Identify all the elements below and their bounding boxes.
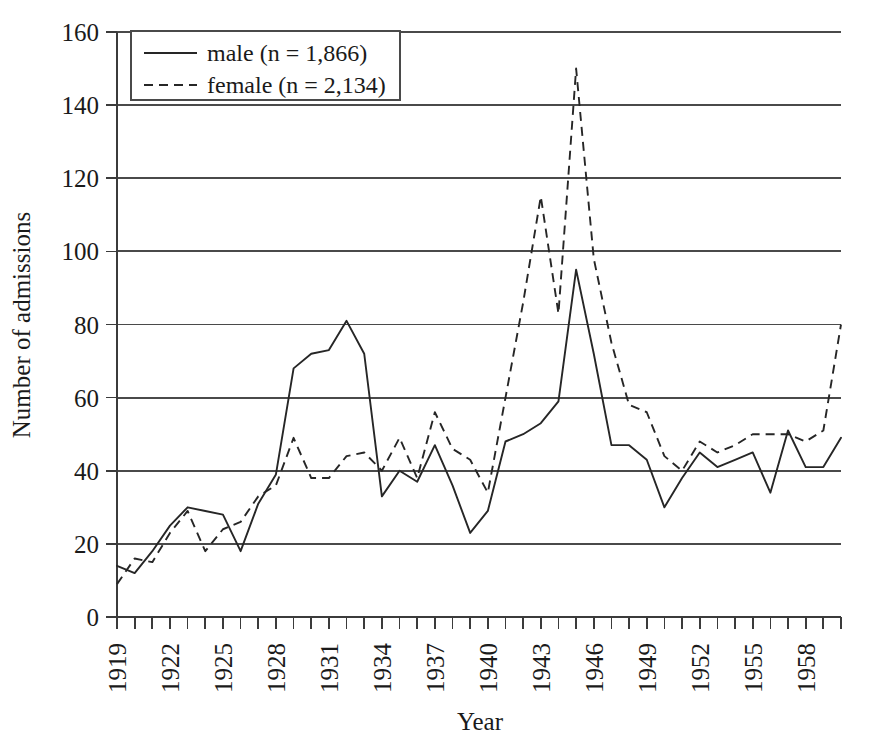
y-tick-label-20: 20 (74, 531, 99, 558)
y-tick-label-group: 020406080100120140160 (62, 19, 100, 631)
x-tick-label-1922: 1922 (157, 643, 184, 693)
x-tick-label-group: 1919192219251928193119341937194019431946… (104, 643, 820, 694)
x-tick-label-1955: 1955 (740, 643, 767, 693)
x-tick-label-1946: 1946 (581, 643, 608, 693)
chart-legend: male (n = 1,866) female (n = 2,134) (131, 31, 400, 100)
y-tick-label-120: 120 (62, 165, 100, 192)
series-line-female (117, 69, 841, 585)
x-axis-title: Year (457, 708, 504, 735)
x-tick-label-1934: 1934 (369, 643, 396, 694)
legend-label-female: female (n = 2,134) (207, 72, 386, 98)
y-tick-label-40: 40 (74, 458, 99, 485)
y-tick-label-100: 100 (62, 238, 100, 265)
legend-label-male: male (n = 1,866) (207, 40, 367, 66)
gridline-group (117, 32, 841, 544)
x-tick-label-1928: 1928 (263, 643, 290, 693)
x-tick-label-1958: 1958 (793, 643, 820, 693)
x-tick-label-1919: 1919 (104, 643, 131, 693)
y-axis-title: Number of admissions (8, 212, 35, 438)
x-tick-label-1931: 1931 (316, 643, 343, 693)
x-tick-label-1949: 1949 (634, 643, 661, 693)
y-tick-label-160: 160 (62, 19, 100, 46)
y-tick-label-80: 80 (74, 312, 99, 339)
chart-figure: 020406080100120140160 191919221925192819… (0, 0, 869, 740)
x-tick-label-1937: 1937 (422, 643, 449, 693)
x-tick-label-1952: 1952 (687, 643, 714, 693)
y-tick-label-140: 140 (62, 92, 100, 119)
admissions-line-chart: 020406080100120140160 191919221925192819… (0, 0, 869, 740)
x-tick-label-1943: 1943 (528, 643, 555, 693)
x-tick-mark-group (117, 617, 841, 629)
y-tick-mark-group (106, 32, 117, 617)
x-tick-label-1925: 1925 (210, 643, 237, 693)
y-tick-label-0: 0 (87, 604, 100, 631)
y-tick-label-60: 60 (74, 385, 99, 412)
x-tick-label-1940: 1940 (475, 643, 502, 693)
